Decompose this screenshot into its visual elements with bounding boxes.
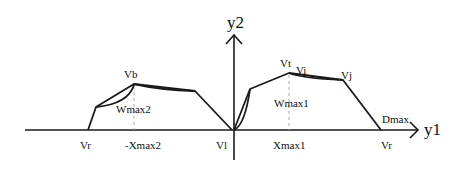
label-vl: Vl <box>216 140 227 151</box>
label-vr-right: Vr <box>381 140 392 151</box>
label-dmax: Dmax <box>382 114 409 125</box>
y-axis <box>226 35 242 160</box>
left-envelope-curve <box>88 84 232 130</box>
x-axis-label: y1 <box>424 121 441 138</box>
label-wmax1: Wmax1 <box>274 98 309 109</box>
label-neg-xmax2: -Xmax2 <box>125 140 161 151</box>
label-vb: Vb <box>124 69 137 80</box>
y-axis-label: y2 <box>227 14 244 31</box>
label-vi: Vi <box>296 65 306 76</box>
label-vj: Vj <box>341 70 352 81</box>
label-xmax1: Xmax1 <box>273 140 305 151</box>
label-wmax2: Wmax2 <box>116 104 151 115</box>
hysteresis-diagram: Vb Wmax2 Vr -Xmax2 Vl Vt Vi Vj Wmax1 Xma… <box>0 0 462 169</box>
x-axis <box>25 122 418 138</box>
label-vr-left: Vr <box>80 140 91 151</box>
label-vt: Vt <box>280 58 291 69</box>
